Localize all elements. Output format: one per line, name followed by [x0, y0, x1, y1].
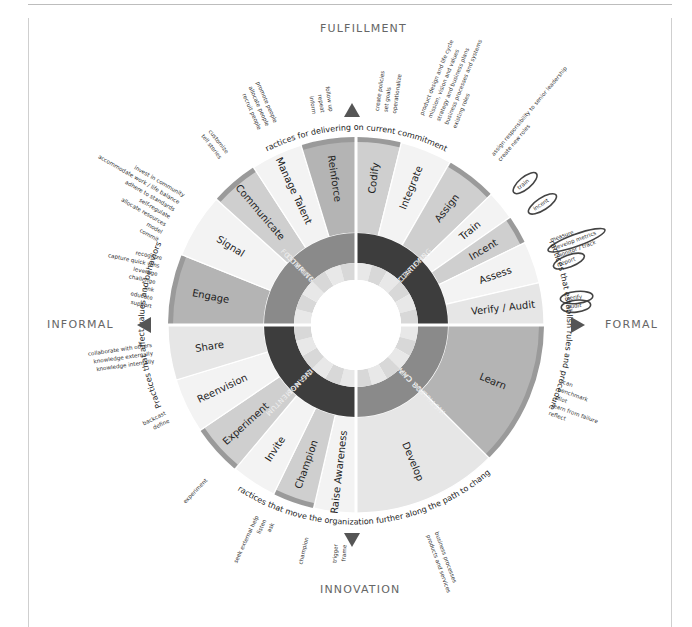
notes-signal: commitmodelallocate resourcesself-regula… [97, 153, 186, 243]
notes-experiment: experiment [182, 477, 210, 506]
notes-assign: assign responsibility to senior leadersh… [490, 65, 569, 162]
notes-train: train [510, 169, 540, 197]
notes-codify: create policiesset goalsoperationalize [374, 70, 404, 114]
arrow-up-icon [344, 103, 360, 117]
notes-incent: incent [525, 190, 559, 218]
note-item: accommodate work / life balance [97, 153, 181, 205]
axis-label-innovation: INNOVATION [320, 583, 401, 596]
notes-manage-talent: recruit peopleallocate peoplepromote peo… [240, 80, 278, 131]
note-item: incent [532, 197, 550, 212]
notes-reinforce: informrepeatfollow up [309, 86, 335, 115]
notes-communicate: tell storiescustomize [200, 128, 230, 160]
note-item: ask [266, 521, 276, 533]
notes-reenvision: definebackcast [142, 410, 171, 431]
note-item: experiment [182, 477, 210, 506]
note-item: frame [340, 544, 347, 562]
arrow-right-icon [571, 317, 585, 333]
notes-develop: business processesproducts and services [424, 531, 457, 594]
note-item: inform [309, 96, 318, 115]
note-item: assign responsibility to senior leadersh… [490, 65, 569, 157]
notes-invite: asklistenseek external help [232, 514, 275, 564]
notes-raise-awareness: frametrigger [331, 543, 347, 563]
notes-champion: champion [297, 536, 310, 565]
axis-label-informal: INFORMAL [47, 318, 114, 331]
note-item: operationalize [391, 73, 404, 114]
note-item: champion [297, 536, 310, 565]
practice-wheel-diagram: CodifyIntegrateAssignTrainIncentAssessVe… [0, 0, 692, 627]
notes-integrate: product design and life cyclemission, vi… [419, 38, 484, 129]
note-item: trigger [331, 543, 339, 563]
axis-label-fulfillment: FULFILLMENT [320, 22, 407, 35]
note-item: seek external help [232, 514, 260, 564]
axis-label-formal: FORMAL [605, 318, 658, 331]
